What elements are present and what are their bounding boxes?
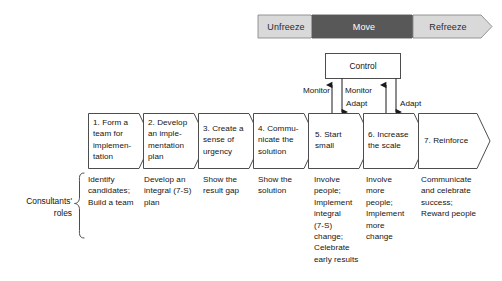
consultants-roles-caption: Consultants' roles bbox=[4, 196, 72, 219]
role-description-2: Develop an integral (7-S) plan bbox=[144, 174, 202, 208]
step-label-7: 7. Reinforce bbox=[424, 135, 484, 146]
consultants-brace bbox=[75, 173, 85, 238]
step-label-5: 5. Start small bbox=[315, 129, 365, 152]
phase-label-move: Move bbox=[313, 22, 415, 32]
control-box-label: Control bbox=[325, 61, 401, 71]
role-description-7: Communicate and celebrate success; Rewar… bbox=[421, 174, 499, 220]
phase-label-refreeze: Refreeze bbox=[413, 22, 483, 32]
step-label-6: 6. Increase the scale bbox=[368, 129, 422, 152]
role-description-4: Show the solution bbox=[258, 174, 310, 197]
edge-label-monitor-step5: Monitor bbox=[303, 86, 330, 96]
edge-label-adapt-step6: Adapt bbox=[400, 99, 421, 109]
edge-label-adapt-step5: Adapt bbox=[346, 99, 367, 109]
role-description-6: Involve more people; Implement more chan… bbox=[366, 174, 418, 242]
role-description-3: Show the result gap bbox=[203, 174, 255, 197]
step-label-1: 1. Form a team for implemen- tation bbox=[93, 117, 145, 163]
step-label-4: 4. Commu- nicate the solution bbox=[258, 123, 312, 157]
role-description-1: Identify candidates; Build a team bbox=[88, 174, 144, 208]
edge-label-monitor-step6: Monitor bbox=[345, 86, 372, 96]
step-label-3: 3. Create a sense of urgency bbox=[203, 123, 257, 157]
diagram-canvas: Unfreeze Move Refreeze Control Monitor M… bbox=[0, 0, 502, 281]
step-label-2: 2. Develop an imple- mentation plan bbox=[148, 117, 200, 163]
phase-label-unfreeze: Unfreeze bbox=[258, 22, 314, 32]
role-description-5: Involve people; Implement integral (7-S)… bbox=[314, 174, 362, 265]
